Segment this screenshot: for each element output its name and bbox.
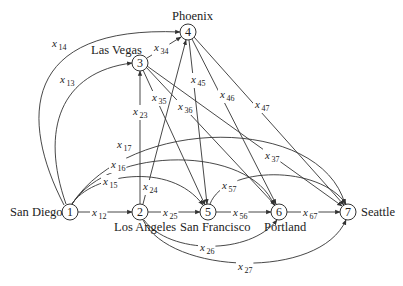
node-2: 2 xyxy=(132,204,148,220)
node-number: 3 xyxy=(137,56,143,70)
node-number: 5 xyxy=(205,205,211,219)
node-5: 5 xyxy=(200,204,216,220)
edge-labels-layer: x12x13x14x15x16x17x23x24x25x26x27x34x35x… xyxy=(50,37,318,275)
edge-x36 xyxy=(146,67,275,205)
edge-x37 xyxy=(147,66,342,206)
node-6: 6 xyxy=(271,204,287,220)
city-label-1: San Diego xyxy=(10,205,62,219)
edge-x47 xyxy=(194,37,344,205)
city-label-6: Portland xyxy=(264,220,307,234)
node-1: 1 xyxy=(62,204,78,220)
node-number: 6 xyxy=(276,205,282,219)
city-label-3: Las Vegas xyxy=(91,43,142,57)
node-3: 3 xyxy=(132,55,148,71)
node-7: 7 xyxy=(340,204,356,220)
node-number: 4 xyxy=(185,25,191,39)
network-diagram: x12x13x14x15x16x17x23x24x25x26x27x34x35x… xyxy=(0,0,403,286)
city-label-7: Seattle xyxy=(361,205,395,219)
node-number: 1 xyxy=(67,205,73,219)
node-number: 7 xyxy=(345,205,351,219)
node-number: 2 xyxy=(137,205,143,219)
node-4: 4 xyxy=(180,24,196,40)
city-label-2: Los Angeles xyxy=(114,220,176,234)
edge-x45 xyxy=(189,40,207,204)
city-label-5: San Francisco xyxy=(180,220,250,234)
city-label-4: Phoenix xyxy=(172,9,214,23)
